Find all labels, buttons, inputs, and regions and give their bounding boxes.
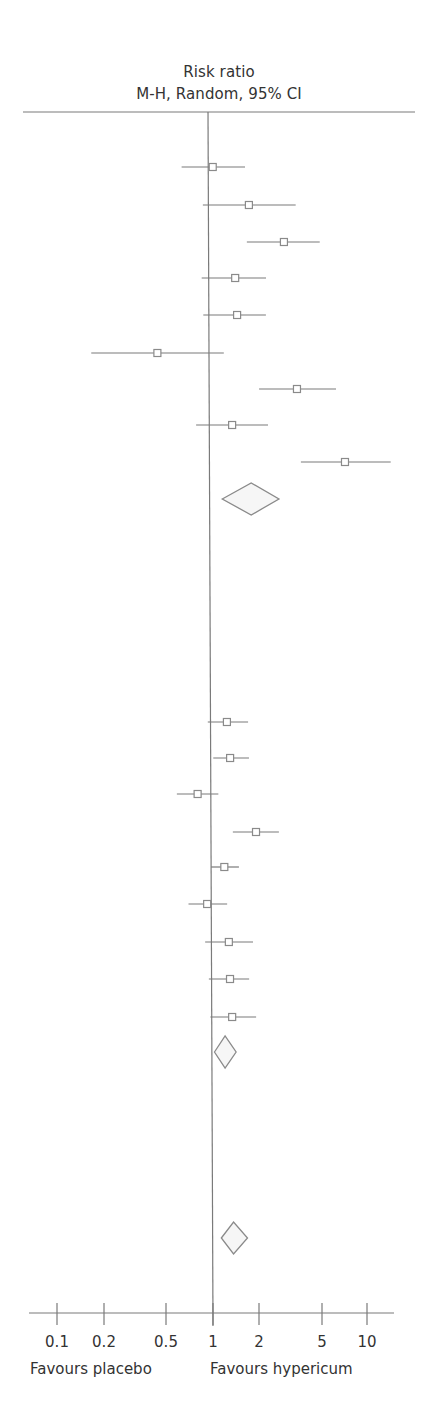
study-row [189, 901, 228, 908]
study-row [209, 976, 249, 983]
point-estimate-box [229, 1014, 236, 1021]
pooled-estimate-diamond [214, 1036, 236, 1068]
pooled-estimate-diamond [222, 483, 279, 515]
study-row [210, 1014, 256, 1021]
axis-tick-label: 0.2 [92, 1333, 116, 1351]
favours-hypericum-label: Favours hypericum [210, 1360, 353, 1378]
point-estimate-box [221, 864, 228, 871]
axis-ticks [57, 1303, 367, 1325]
study-row [202, 275, 266, 282]
study-row [301, 459, 391, 466]
study-row [211, 864, 239, 871]
study-row [203, 312, 266, 319]
favours-placebo-label: Favours placebo [30, 1360, 152, 1378]
axis-tick-label: 0.1 [45, 1333, 69, 1351]
study-row [182, 164, 245, 171]
axis-tick-label: 0.5 [154, 1333, 178, 1351]
study-row [91, 350, 224, 357]
study-row [247, 239, 320, 246]
point-estimate-box [227, 976, 234, 983]
axis-tick-label: 5 [317, 1333, 327, 1351]
point-estimate-box [245, 202, 252, 209]
point-estimate-box [223, 719, 230, 726]
point-estimate-box [280, 239, 287, 246]
point-estimate-box [209, 164, 216, 171]
axis-tick-label: 10 [357, 1333, 376, 1351]
point-estimate-box [154, 350, 161, 357]
point-estimate-box [227, 755, 234, 762]
point-estimate-box [253, 829, 260, 836]
point-estimate-box [232, 275, 239, 282]
point-estimate-box [229, 422, 236, 429]
study-row [233, 829, 279, 836]
study-row [205, 939, 253, 946]
point-estimate-box [293, 386, 300, 393]
forest-plot [0, 0, 428, 1425]
study-row [203, 202, 296, 209]
axis-tick-label: 2 [254, 1333, 264, 1351]
study-row [208, 719, 248, 726]
study-row [196, 422, 268, 429]
no-effect-line [208, 112, 213, 1326]
study-row [259, 386, 336, 393]
point-estimate-box [194, 791, 201, 798]
study-rows [91, 164, 390, 1255]
point-estimate-box [204, 901, 211, 908]
point-estimate-box [225, 939, 232, 946]
axis-tick-label: 1 [208, 1333, 218, 1351]
point-estimate-box [234, 312, 241, 319]
overall-estimate-diamond [221, 1222, 247, 1254]
point-estimate-box [341, 459, 348, 466]
study-row [213, 755, 249, 762]
study-row [177, 791, 218, 798]
